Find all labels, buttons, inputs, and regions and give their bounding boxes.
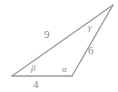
geometry-figure: 4 9 6 β α γ (0, 0, 118, 92)
angle-label-beta: β (31, 64, 35, 73)
angle-label-alpha: α (62, 65, 67, 74)
side-length-label-long-left: 9 (44, 29, 50, 40)
side-length-label-base: 4 (33, 79, 39, 90)
angle-label-gamma: γ (88, 23, 92, 32)
triangle-side-right (72, 5, 113, 76)
triangle-diagram (0, 0, 118, 92)
side-length-label-right: 6 (88, 45, 94, 56)
